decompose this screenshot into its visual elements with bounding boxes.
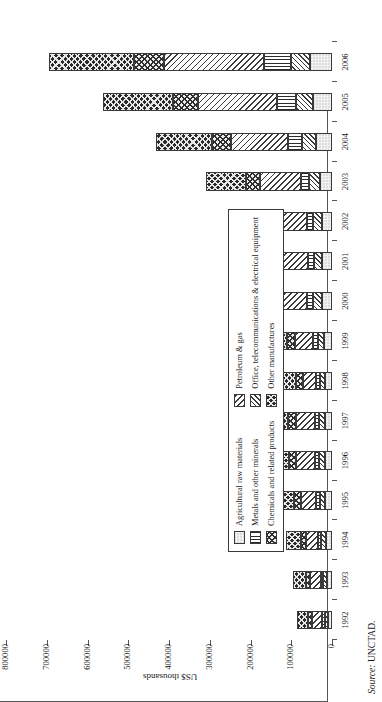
bar-segment	[302, 133, 316, 151]
legend-swatch-icon	[234, 394, 245, 407]
legend-item-label: Chemicals and related products	[267, 421, 276, 526]
bar-segment	[310, 571, 321, 589]
bar-segment	[291, 53, 310, 71]
category-axis-tick	[332, 41, 337, 42]
bar-segment	[316, 133, 332, 151]
category-axis-tick-label: 1999	[340, 324, 350, 358]
bar-segment	[231, 133, 288, 151]
category-axis-tick-label: 1996	[340, 444, 350, 478]
bar-segment	[313, 93, 332, 111]
bar-segment	[309, 172, 320, 190]
category-axis-tick	[332, 559, 337, 560]
bar-segment	[173, 93, 198, 111]
bar-segment	[287, 332, 295, 350]
bar-segment	[296, 93, 313, 111]
value-axis-tick-label: 100000	[286, 644, 295, 702]
bar-segment	[260, 172, 301, 190]
bar-segment	[325, 372, 332, 390]
bar-segment	[296, 412, 315, 430]
legend-column-right: Petroleum & gasOffice, telecommunication…	[234, 217, 277, 407]
category-axis-tick-label: 1997	[340, 404, 350, 438]
bar-segment	[313, 212, 322, 230]
category-axis-tick-label: 2005	[340, 85, 350, 119]
category-axis-tick-label: 1994	[340, 523, 350, 557]
bar-segment	[310, 53, 332, 71]
value-axis-tick-label: 600000	[83, 644, 92, 702]
bar-segment	[322, 292, 332, 310]
legend-swatch-icon	[234, 531, 245, 544]
bar-segment	[312, 611, 322, 629]
bar-stack	[286, 531, 332, 549]
legend-item-label: Petroleum & gas	[235, 332, 244, 388]
category-axis-tick	[332, 200, 337, 201]
bar-segment	[289, 451, 296, 469]
bar-segment	[212, 133, 232, 151]
category-axis-tick	[332, 400, 337, 401]
category-axis-tick	[332, 161, 337, 162]
category-axis-tick-label: 2003	[340, 165, 350, 199]
bar-segment	[326, 531, 332, 549]
bar-segment	[293, 571, 305, 589]
category-axis-tick-label: 2004	[340, 125, 350, 159]
category-axis-tick	[332, 81, 337, 82]
bar-stack	[297, 611, 332, 629]
legend-item-other: Other manufactures	[266, 217, 277, 407]
category-axis-tick-label: 2006	[340, 45, 350, 79]
category-axis-tick-label: 2001	[340, 244, 350, 278]
bar-segment	[296, 451, 315, 469]
bar-segment	[303, 372, 316, 390]
bar-segment	[286, 531, 301, 549]
bar-segment	[134, 53, 164, 71]
category-axis-tick	[332, 519, 337, 520]
category-axis-tick	[332, 639, 337, 640]
value-axis-tick-label: 500000	[123, 644, 132, 702]
bar-segment	[297, 611, 308, 629]
legend-item-office: Office, telecommunications & electrical …	[250, 217, 261, 407]
category-axis-tick-label: 1993	[340, 563, 350, 597]
bar-segment	[246, 172, 261, 190]
legend-swatch-icon	[250, 394, 261, 407]
bar-segment	[164, 53, 264, 71]
bar-segment	[306, 531, 317, 549]
bar-segment	[324, 332, 332, 350]
value-axis-tick-label: 0	[327, 644, 336, 702]
bar-segment	[322, 252, 332, 270]
legend-column-left: Agricultural raw materialsMetals and oth…	[234, 421, 277, 544]
bar-segment	[301, 491, 316, 509]
bar-segment	[264, 53, 292, 71]
category-axis-tick	[332, 599, 337, 600]
category-axis-tick	[332, 240, 337, 241]
bar-stack	[277, 372, 332, 390]
bar-segment	[322, 212, 332, 230]
bar-segment	[288, 412, 295, 430]
legend-item-chemicals: Chemicals and related products	[266, 421, 277, 544]
bar-stack	[49, 53, 332, 71]
legend-item-label: Agricultural raw materials	[235, 438, 244, 526]
bar-segment	[325, 412, 332, 430]
bar-segment	[198, 93, 278, 111]
bar-segment	[295, 332, 314, 350]
bar-stack	[293, 571, 332, 589]
bar-segment	[314, 252, 322, 270]
category-axis-tick	[332, 320, 337, 321]
legend-item-label: Other manufactures	[267, 322, 276, 388]
bar-segment	[288, 133, 302, 151]
source-label: Source:	[366, 665, 377, 694]
bar-segment	[327, 571, 332, 589]
bar-stack	[156, 133, 332, 151]
bar-segment	[294, 491, 301, 509]
category-axis-tick	[332, 440, 337, 441]
value-axis-tick-label: 200000	[246, 644, 255, 702]
category-axis-tick	[332, 121, 337, 122]
category-axis-tick	[332, 360, 337, 361]
legend-item-label: Office, telecommunications & electrical …	[251, 217, 260, 389]
value-axis-tick-label: 800000	[1, 644, 10, 702]
source-value: UNCTAD.	[366, 621, 377, 663]
legend-item-agricultural: Agricultural raw materials	[234, 421, 245, 544]
chart-figure: US$ thousands 01000002000003000004000005…	[0, 0, 382, 702]
legend-swatch-icon	[266, 531, 277, 544]
bar-segment	[49, 53, 134, 71]
category-axis-tick-label: 1992	[340, 603, 350, 637]
value-axis-tick-label: 700000	[42, 644, 51, 702]
bar-segment	[328, 611, 332, 629]
